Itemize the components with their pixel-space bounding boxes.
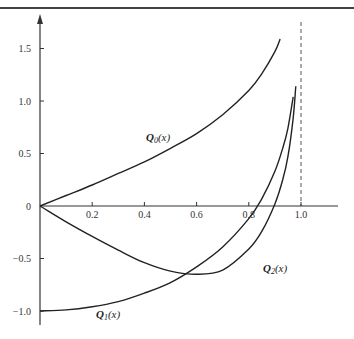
curve-q1 — [40, 97, 293, 311]
y-tick-label: −1.0 — [13, 306, 31, 317]
label-q0: Q0(x) — [146, 131, 170, 145]
label-q2: Q2(x) — [263, 262, 287, 276]
curve-q2 — [40, 86, 296, 274]
label-q1: Q1(x) — [96, 308, 120, 322]
x-tick-label: 0.4 — [138, 209, 151, 220]
curves — [40, 39, 296, 311]
legendre-q-chart: 1.51.00.50−0.5−1.0 0.20.40.60.81.0 Q0(x)… — [0, 0, 354, 339]
y-tick-label: 0 — [26, 201, 31, 212]
y-tick-label: −0.5 — [13, 253, 31, 264]
x-tick-label: 1.0 — [295, 209, 308, 220]
x-tick-label: 0.2 — [86, 209, 99, 220]
y-tick-label: 0.5 — [19, 148, 32, 159]
y-ticks: 1.51.00.50−0.5−1.0 — [13, 43, 44, 317]
curve-q0 — [40, 39, 280, 206]
y-tick-label: 1.0 — [19, 96, 32, 107]
y-axis-arrow-icon — [37, 14, 43, 24]
x-tick-label: 0.6 — [190, 209, 203, 220]
y-tick-label: 1.5 — [19, 43, 32, 54]
